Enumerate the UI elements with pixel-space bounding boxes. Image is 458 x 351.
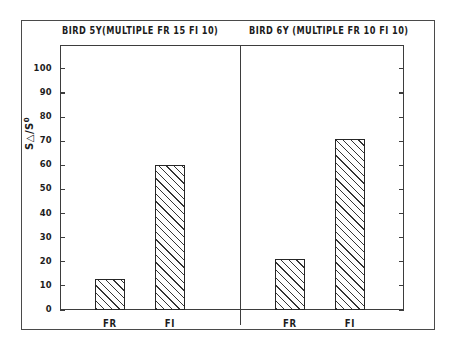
y-tick-mark-right-50 [399,189,404,190]
y-tick-mark-right-80 [399,117,404,118]
panel-title-right: BIRD 6Y (MULTIPLE FR 10 FI 10) [249,25,409,37]
panel-title-left: BIRD 5Y(MULTIPLE FR 15 FI 10) [62,25,218,37]
y-tick-mark-right-30 [399,237,404,238]
y-tick-label-70: 70 [12,135,52,146]
y-tick-mark-right-70 [399,141,404,142]
y-tick-mark-left-10 [60,285,65,286]
y-tick-label-40: 40 [12,207,52,218]
y-tick-mark-left-0 [60,310,65,311]
y-tick-label-80: 80 [12,111,52,122]
y-tick-mark-left-60 [60,165,65,166]
y-tick-mark-right-90 [399,92,404,93]
y-tick-mark-left-50 [60,189,65,190]
x-label-left-fi: FI [150,318,190,329]
y-tick-mark-right-10 [399,285,404,286]
x-label-right-fi: FI [330,318,370,329]
y-tick-label-90: 90 [12,86,52,97]
y-axis-title-slash-s: /S [24,122,35,134]
bar-right-fr [275,259,305,310]
y-tick-mark-left-100 [60,68,65,69]
y-tick-label-50: 50 [12,183,52,194]
y-tick-mark-right-0 [399,310,404,311]
panel-divider [240,45,241,325]
plot-area: 1009080706050403020100FRFIFRFI [60,52,404,310]
y-tick-mark-left-20 [60,261,65,262]
y-tick-mark-right-20 [399,261,404,262]
figure-root: BIRD 5Y(MULTIPLE FR 15 FI 10) BIRD 6Y (M… [0,0,458,351]
y-tick-label-30: 30 [12,231,52,242]
y-tick-mark-left-30 [60,237,65,238]
y-tick-mark-right-60 [399,165,404,166]
bar-left-fr [95,279,125,310]
y-tick-label-60: 60 [12,159,52,170]
y-tick-label-0: 0 [12,304,52,315]
y-tick-mark-left-90 [60,92,65,93]
bar-left-fi [155,165,185,310]
y-tick-label-20: 20 [12,255,52,266]
x-label-left-fr: FR [90,318,130,329]
bar-right-fi [335,139,365,310]
y-tick-label-10: 10 [12,279,52,290]
y-tick-mark-right-100 [399,68,404,69]
x-label-right-fr: FR [270,318,310,329]
y-tick-label-100: 100 [12,62,52,73]
y-tick-mark-left-70 [60,141,65,142]
y-tick-mark-left-40 [60,213,65,214]
y-tick-mark-left-80 [60,117,65,118]
y-tick-mark-right-40 [399,213,404,214]
